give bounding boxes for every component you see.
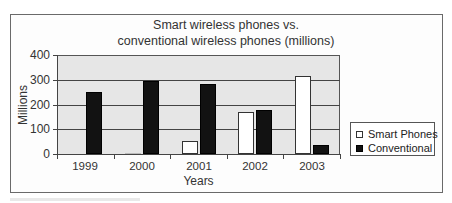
- x-axis-title: Years: [57, 174, 340, 188]
- bar-smart-phones-2003: [295, 76, 311, 154]
- x-tick: [283, 154, 284, 159]
- x-tick-label: 2003: [284, 160, 340, 172]
- figure-caption-clipped: [10, 198, 140, 201]
- chart-title-line-2: conventional wireless phones (millions): [0, 33, 452, 49]
- chart-title: Smart wireless phones vs. conventional w…: [0, 17, 452, 49]
- x-tick: [114, 154, 115, 159]
- bar-conventional-2003: [313, 145, 329, 154]
- legend: Smart Phones Conventional: [350, 122, 435, 156]
- bar-conventional-2002: [256, 110, 272, 154]
- bar-conventional-1999: [86, 92, 102, 154]
- x-tick-label: 1999: [57, 160, 113, 172]
- legend-label-smart-phones: Smart Phones: [368, 128, 438, 140]
- bar-smart-phones-2001: [182, 141, 198, 154]
- y-axis-title: Millions: [16, 85, 30, 125]
- x-tick: [170, 154, 171, 159]
- y-tick: [53, 129, 58, 130]
- legend-item-smart-phones: Smart Phones: [356, 128, 438, 140]
- y-tick-label: 0: [20, 148, 50, 160]
- y-tick: [53, 105, 58, 106]
- x-axis: [57, 154, 340, 155]
- bar-conventional-2000: [143, 81, 159, 154]
- legend-swatch-black-square-icon: [356, 145, 363, 152]
- y-tick: [53, 80, 58, 81]
- chart-title-line-1: Smart wireless phones vs.: [0, 17, 452, 33]
- x-tick: [227, 154, 228, 159]
- bar-conventional-2001: [200, 84, 216, 154]
- y-tick-label: 400: [20, 49, 50, 61]
- x-tick: [340, 154, 341, 159]
- x-tick-label: 2000: [114, 160, 170, 172]
- x-tick: [57, 154, 58, 159]
- legend-item-conventional: Conventional: [356, 142, 432, 154]
- bar-smart-phones-2002: [238, 112, 254, 154]
- x-tick-label: 2002: [227, 160, 283, 172]
- legend-label-conventional: Conventional: [368, 142, 432, 154]
- legend-swatch-white-square-icon: [356, 131, 363, 138]
- x-tick-label: 2001: [171, 160, 227, 172]
- y-tick: [53, 55, 58, 56]
